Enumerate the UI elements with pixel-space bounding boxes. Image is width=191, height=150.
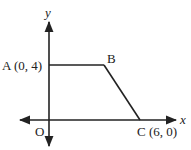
point-a-label: A (0, 4) (2, 58, 42, 73)
point-b-label: B (107, 51, 116, 66)
x-axis-label: x (179, 112, 186, 127)
origin-label: O (35, 124, 44, 139)
coordinate-diagram: y x O A (0, 4) B C (6, 0) (0, 0, 191, 150)
y-axis-label: y (43, 5, 51, 20)
segment-bc (104, 65, 140, 120)
point-c-label: C (6, 0) (137, 124, 177, 139)
